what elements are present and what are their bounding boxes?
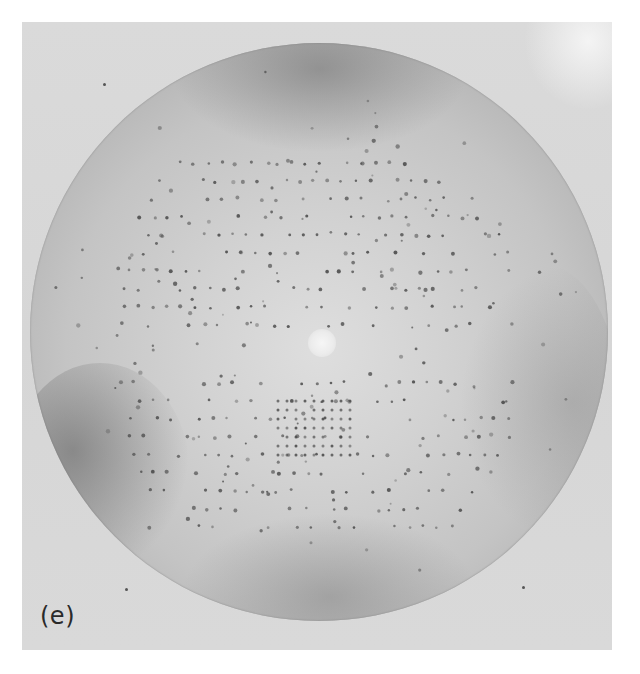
diffraction-spot (483, 454, 486, 457)
diffraction-spot (191, 298, 194, 301)
diffraction-spot (193, 306, 196, 309)
diffraction-spot (281, 434, 284, 437)
diffraction-spot (263, 305, 266, 308)
diffraction-spot (198, 436, 200, 438)
diffraction-spot (196, 342, 199, 345)
diffraction-spot (283, 416, 286, 419)
diffraction-spot (309, 541, 312, 544)
diffraction-spot (365, 548, 368, 551)
diffraction-spot (307, 472, 310, 475)
diffraction-spot (466, 214, 468, 216)
diffraction-spot (239, 250, 243, 254)
diffraction-spot (418, 444, 421, 447)
diffraction-spot (334, 390, 338, 394)
diffraction-spot (177, 455, 180, 458)
diffraction-spot (313, 409, 316, 412)
diffraction-spot (235, 196, 239, 200)
diffraction-spot (319, 288, 323, 292)
diffraction-spot (302, 233, 305, 236)
diffraction-spot (464, 419, 467, 422)
diffraction-spot (394, 287, 397, 290)
diffraction-spot (340, 400, 343, 403)
diffraction-spot (340, 454, 343, 457)
diffraction-spot (427, 234, 431, 238)
diffraction-spot (96, 347, 98, 349)
diffraction-spot (313, 445, 316, 448)
diffraction-spot (489, 470, 492, 473)
diffraction-spot (340, 436, 343, 439)
diffraction-spot (288, 233, 291, 236)
diffraction-spot (233, 509, 237, 513)
diffraction-spot (137, 289, 140, 292)
diffraction-spot (400, 198, 403, 201)
diffraction-spot (277, 427, 280, 430)
diffraction-spot (331, 427, 334, 430)
diffraction-spot (231, 232, 234, 235)
diffraction-spot (355, 180, 357, 182)
diffraction-spot (305, 507, 308, 510)
diffraction-spot (165, 470, 169, 474)
diffraction-spot (261, 452, 265, 456)
diffraction-spot (313, 427, 316, 430)
diffraction-spot (412, 380, 415, 383)
diffraction-spot (337, 526, 340, 529)
diffraction-spot (150, 199, 153, 202)
diffraction-spot (152, 345, 154, 347)
diffraction-spot (380, 274, 384, 278)
diffraction-spot (340, 409, 343, 412)
diffraction-spot (129, 417, 132, 420)
diffraction-spot (313, 418, 316, 421)
diffraction-spot (435, 526, 438, 529)
diffraction-spot (301, 218, 303, 220)
diffraction-spot (334, 399, 338, 403)
diffraction-spot (262, 300, 264, 302)
diffraction-spot (307, 288, 310, 291)
diffraction-spot (374, 112, 376, 114)
diffraction-spot (173, 282, 177, 286)
diffraction-spot (194, 471, 198, 475)
diffraction-spot (506, 250, 509, 253)
diffraction-spot (507, 417, 510, 420)
diffraction-spot (267, 162, 270, 165)
diffraction-spot (236, 306, 240, 310)
diffraction-spot (219, 507, 222, 510)
diffraction-spot (435, 209, 437, 211)
diffraction-spot (234, 374, 236, 376)
diffraction-spot (286, 445, 289, 448)
diffraction-spot (230, 380, 234, 384)
diffraction-spot (359, 197, 362, 200)
diffraction-spot (498, 233, 500, 235)
diffraction-spot (186, 435, 190, 439)
diffraction-spot (128, 256, 132, 260)
diffraction-spot (245, 322, 249, 326)
diffraction-spot (211, 416, 215, 420)
diffraction-spot (439, 380, 443, 384)
diffraction-spot (300, 454, 303, 457)
diffraction-spot (286, 454, 289, 457)
diffraction-spot (141, 434, 145, 438)
diffraction-spot (204, 454, 207, 457)
diffraction-spot (469, 454, 472, 457)
diffraction-spot (391, 307, 394, 310)
diffraction-spot (353, 526, 356, 529)
diffraction-spot (275, 163, 278, 166)
diffraction-spot (349, 418, 352, 421)
diffraction-spot (218, 489, 222, 493)
diffraction-spot (394, 250, 398, 254)
diffraction-spot (445, 328, 449, 332)
diffraction-spot (427, 324, 430, 327)
diffraction-spot (330, 231, 333, 234)
diffraction-spot (484, 232, 487, 235)
diffraction-spot (315, 453, 318, 456)
diffraction-spot (422, 252, 425, 255)
diffraction-spot (187, 221, 191, 225)
diffraction-spot (242, 343, 246, 347)
diffraction-spot (128, 269, 131, 272)
diffraction-spot (155, 242, 158, 245)
diffraction-spot (327, 325, 330, 328)
diffraction-spot (277, 418, 280, 421)
diffraction-spot (311, 179, 314, 182)
diffraction-spot (259, 382, 263, 386)
diffraction-spot (391, 400, 393, 402)
diffraction-spot (271, 470, 275, 474)
